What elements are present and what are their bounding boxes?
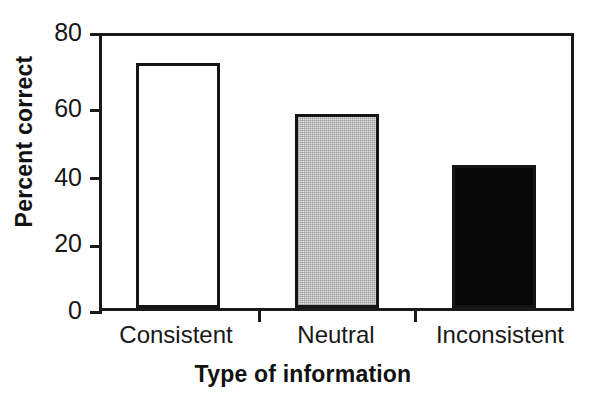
y-tick-mark-0 xyxy=(90,311,102,314)
bar-chart-figure: 80 60 40 20 0 Percent correct Consistent… xyxy=(0,0,606,399)
y-axis-title: Percent correct xyxy=(11,32,38,252)
x-axis-title: Type of information xyxy=(0,361,606,388)
y-tick-mark-40 xyxy=(90,177,102,180)
bar-neutral xyxy=(295,114,379,308)
x-tick-mark-1 xyxy=(258,311,261,322)
y-tick-mark-60 xyxy=(90,109,102,112)
y-tick-mark-80 xyxy=(90,33,102,36)
y-tick-label-0: 0 xyxy=(0,298,99,323)
y-tick-mark-20 xyxy=(90,245,102,248)
bar-inconsistent xyxy=(452,165,536,308)
x-category-neutral: Neutral xyxy=(256,322,416,348)
x-tick-mark-2 xyxy=(414,311,417,322)
bar-consistent xyxy=(136,63,220,308)
x-category-consistent: Consistent xyxy=(96,322,256,348)
x-category-inconsistent: Inconsistent xyxy=(410,322,590,348)
plot-area xyxy=(99,33,574,311)
